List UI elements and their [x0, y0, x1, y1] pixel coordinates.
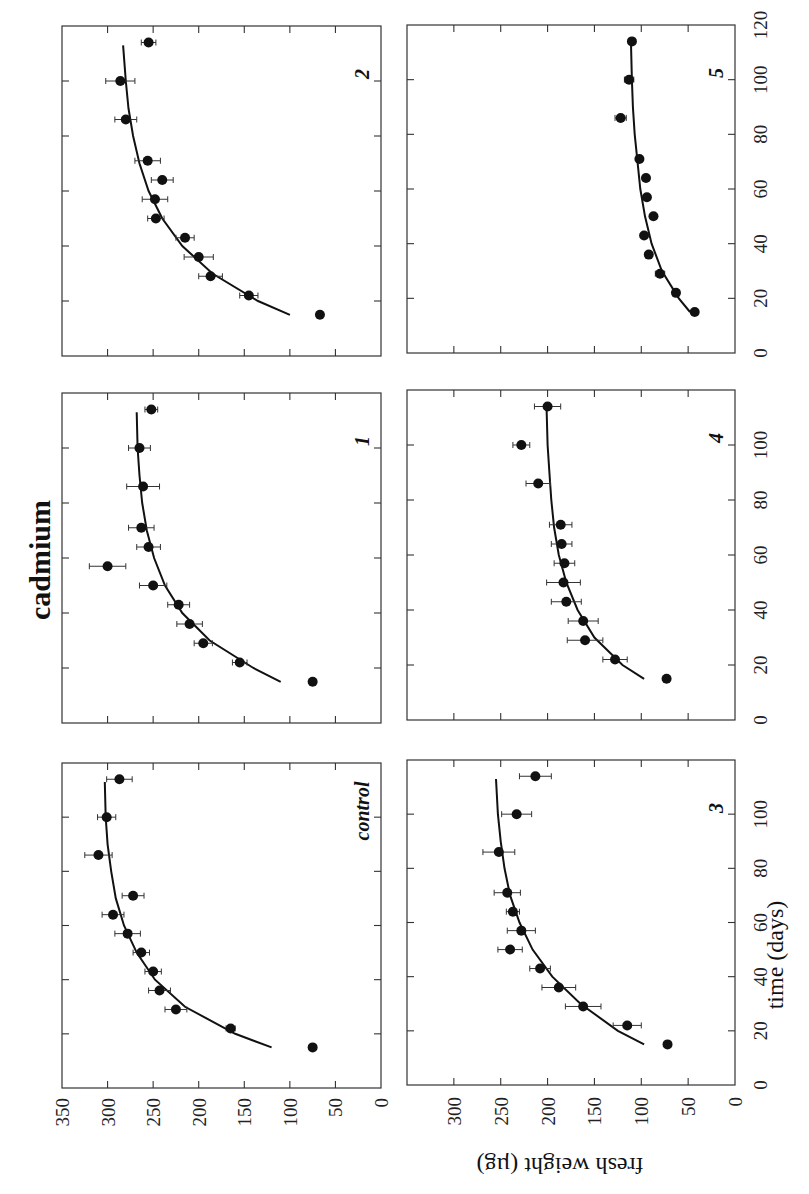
data-point: [108, 910, 118, 920]
svg-text:250: 250: [491, 1097, 512, 1126]
svg-text:0: 0: [750, 715, 771, 725]
data-point: [671, 288, 681, 298]
svg-text:20: 20: [750, 656, 771, 675]
data-point: [580, 635, 590, 645]
x-axis-label: time (days): [762, 901, 788, 1010]
data-point: [235, 658, 245, 668]
svg-text:80: 80: [750, 491, 771, 510]
data-point: [144, 542, 154, 552]
svg-text:100: 100: [750, 800, 771, 829]
data-point: [663, 1039, 673, 1049]
data-point: [648, 211, 658, 221]
data-point: [128, 891, 138, 901]
data-point: [206, 271, 216, 281]
data-point: [143, 156, 153, 166]
figure-title: cadmium: [23, 500, 56, 620]
data-point: [308, 677, 318, 687]
data-point: [155, 986, 165, 996]
data-point: [512, 809, 522, 819]
data-point: [121, 115, 131, 125]
svg-text:20: 20: [750, 1021, 771, 1040]
svg-text:100: 100: [750, 431, 771, 460]
panels-group: control314250501001502002503003500501001…: [52, 11, 771, 1127]
data-point: [622, 1020, 632, 1030]
svg-text:50: 50: [325, 1098, 346, 1117]
data-point: [244, 291, 254, 301]
data-point: [642, 192, 652, 202]
panel-label: 1: [351, 436, 373, 446]
data-point: [103, 561, 113, 571]
svg-text:80: 80: [750, 125, 771, 144]
data-point: [578, 616, 588, 626]
data-point: [554, 983, 564, 993]
svg-text:100: 100: [750, 65, 771, 94]
svg-text:40: 40: [750, 601, 771, 620]
panel-frame: [407, 760, 735, 1085]
weight-tick-labels: 050100150200250300350050100150200250300: [52, 1097, 746, 1127]
svg-text:100: 100: [280, 1098, 301, 1127]
panel-control: control: [62, 763, 381, 1088]
data-point: [194, 252, 204, 262]
data-point: [494, 847, 504, 857]
panel-label: 2: [351, 69, 373, 80]
svg-text:60: 60: [750, 180, 771, 199]
svg-text:0: 0: [750, 348, 771, 358]
data-point: [662, 674, 672, 684]
data-point: [136, 948, 146, 958]
panel-label: 4: [705, 433, 727, 444]
data-point: [508, 907, 518, 917]
svg-text:200: 200: [189, 1098, 210, 1127]
svg-text:0: 0: [725, 1097, 746, 1107]
data-point: [655, 269, 665, 279]
data-point: [308, 1042, 318, 1052]
data-point: [226, 1023, 236, 1033]
data-point: [690, 307, 700, 317]
data-point: [180, 233, 190, 243]
data-point: [148, 967, 158, 977]
data-point: [556, 520, 566, 530]
data-point: [543, 402, 553, 412]
svg-text:300: 300: [444, 1097, 465, 1126]
svg-text:0: 0: [750, 1080, 771, 1090]
data-point: [644, 250, 654, 260]
data-point: [198, 638, 208, 648]
svg-text:200: 200: [538, 1097, 559, 1126]
data-point: [634, 154, 644, 164]
data-point: [559, 578, 569, 588]
data-point: [93, 850, 103, 860]
svg-text:60: 60: [750, 546, 771, 565]
data-point: [174, 600, 184, 610]
data-point: [610, 655, 620, 665]
svg-text:300: 300: [98, 1098, 119, 1127]
panel-2: 2: [62, 26, 381, 356]
svg-text:100: 100: [631, 1097, 652, 1126]
panel-1: 1: [62, 393, 381, 723]
svg-text:350: 350: [52, 1098, 73, 1127]
data-point: [616, 113, 626, 123]
data-point: [624, 75, 634, 85]
svg-text:80: 80: [750, 859, 771, 878]
data-point: [557, 539, 567, 549]
data-point: [151, 214, 161, 224]
data-point: [505, 945, 515, 955]
y-axis-label: fresh weight (µg): [476, 1153, 643, 1179]
panel-frame: [407, 390, 735, 720]
svg-text:150: 150: [584, 1097, 605, 1126]
svg-text:150: 150: [234, 1098, 255, 1127]
data-point: [138, 482, 148, 492]
data-point: [533, 479, 543, 489]
panel-4: 4: [407, 390, 735, 720]
svg-text:40: 40: [750, 234, 771, 253]
data-point: [114, 774, 124, 784]
data-point: [530, 771, 540, 781]
panel-frame: [62, 26, 381, 356]
data-point: [146, 405, 156, 415]
data-point: [185, 619, 195, 629]
cadmium-growth-figure: control314250501001502002503003500501001…: [0, 0, 809, 1194]
svg-text:120: 120: [750, 11, 771, 40]
data-point: [148, 581, 158, 591]
svg-text:20: 20: [750, 289, 771, 308]
svg-text:50: 50: [678, 1097, 699, 1116]
data-point: [627, 36, 637, 46]
panel-label: control: [351, 781, 373, 840]
